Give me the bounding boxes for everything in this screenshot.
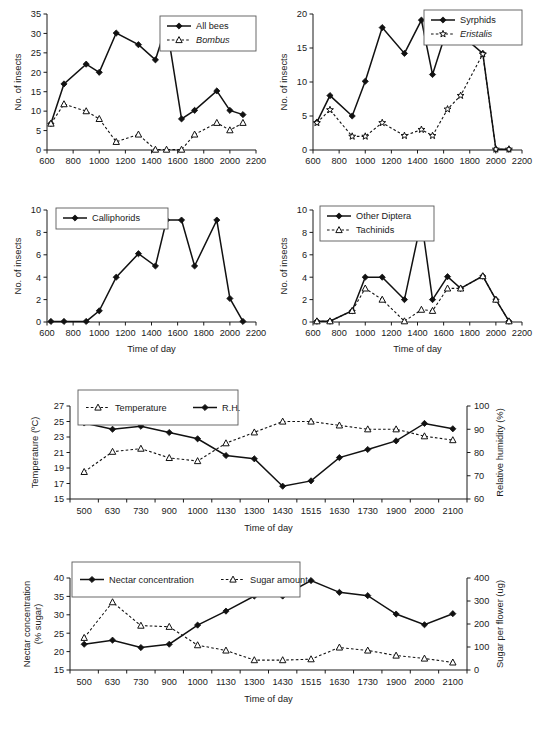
y-tick-label: 0 xyxy=(302,317,307,327)
data-point xyxy=(240,119,246,125)
y-tick-label-left: 21 xyxy=(54,448,64,458)
y-tick-label-left: 25 xyxy=(54,629,64,639)
y-axis-title: No. of insects xyxy=(278,53,289,110)
x-tick-label: 1000 xyxy=(187,506,207,516)
y-tick-label: 4 xyxy=(302,273,307,283)
y-tick-label: 0 xyxy=(36,317,41,327)
y-tick-label: 6 xyxy=(36,250,41,260)
data-point xyxy=(192,263,198,269)
x-tick-label: 1600 xyxy=(167,328,187,338)
data-point xyxy=(362,274,368,280)
y-tick-label: 8 xyxy=(36,228,41,238)
x-tick-label: 1200 xyxy=(381,156,401,166)
data-point xyxy=(81,641,87,647)
x-tick-label: 1730 xyxy=(358,677,378,687)
x-tick-label: 1300 xyxy=(244,506,264,516)
y-tick-label-right: 70 xyxy=(474,471,484,481)
y-tick-label-left: 17 xyxy=(54,479,64,489)
x-tick-label: 1400 xyxy=(141,328,161,338)
data-point xyxy=(362,133,369,140)
data-point xyxy=(421,622,427,628)
x-tick-label: 1800 xyxy=(194,328,214,338)
series-line-1 xyxy=(317,54,509,149)
x-tick-label: 1400 xyxy=(407,328,427,338)
data-point xyxy=(506,146,513,153)
x-tick-label: 2000 xyxy=(220,156,240,166)
data-point xyxy=(135,131,141,137)
x-tick-label: 1515 xyxy=(301,677,321,687)
y-tick-label: 35 xyxy=(31,9,41,19)
x-tick-label: 500 xyxy=(77,506,92,516)
x-tick-label: 1130 xyxy=(216,677,236,687)
x-tick-label: 600 xyxy=(39,156,54,166)
y-tick-label-left: 40 xyxy=(54,573,64,583)
data-point xyxy=(492,146,499,153)
x-tick-label: 1000 xyxy=(89,156,109,166)
y-tick-label-left: 19 xyxy=(54,463,64,473)
chart-temp-rh: 5006307309001000113013001430151516301730… xyxy=(0,382,535,547)
data-point xyxy=(61,318,67,324)
y-tick-label: 6 xyxy=(302,250,307,260)
x-tick-label: 1430 xyxy=(272,506,292,516)
y-tick-label: 2 xyxy=(302,295,307,305)
x-tick-label: 1515 xyxy=(301,506,321,516)
data-point xyxy=(450,426,456,432)
x-tick-label: 1800 xyxy=(460,156,480,166)
x-tick-label: 1800 xyxy=(460,328,480,338)
x-tick-label: 1600 xyxy=(433,328,453,338)
y-tick-label-left: 15 xyxy=(54,665,64,675)
y-tick-label-right: 0 xyxy=(474,665,479,675)
y-tick-label: 20 xyxy=(31,68,41,78)
chart-calliphorids: 6008001000120014001600180020002200024681… xyxy=(0,182,268,368)
x-tick-label: 1130 xyxy=(216,506,236,516)
data-point xyxy=(191,131,197,137)
x-tick-label: 1000 xyxy=(89,328,109,338)
legend: Nectar concentrationSugar amount xyxy=(72,562,308,597)
x-axis-title: Time of day xyxy=(244,522,293,533)
x-tick-label: 1800 xyxy=(194,156,214,166)
y-tick-label-left: 25 xyxy=(54,417,64,427)
legend: All beesBombus xyxy=(160,16,256,51)
x-tick-label: 2000 xyxy=(486,156,506,166)
x-tick-label: 2000 xyxy=(220,328,240,338)
data-point xyxy=(138,644,144,650)
data-point xyxy=(336,644,342,650)
x-tick-label: 600 xyxy=(305,156,320,166)
series-line-0 xyxy=(51,220,243,321)
legend-label-1: Eristalis xyxy=(460,29,493,39)
x-tick-label: 1900 xyxy=(386,677,406,687)
legend: TemperatureR.H. xyxy=(78,390,240,425)
y-axis-title: No. of insects xyxy=(278,237,289,294)
x-tick-label: 730 xyxy=(133,677,148,687)
y-tick-label: 0 xyxy=(36,145,41,155)
x-tick-label: 730 xyxy=(133,506,148,516)
x-tick-label: 800 xyxy=(65,328,80,338)
y-tick-label-left: 20 xyxy=(54,647,64,657)
series-line-1 xyxy=(84,423,453,486)
data-point xyxy=(109,448,115,454)
x-tick-label: 600 xyxy=(39,328,54,338)
data-point xyxy=(429,132,436,139)
y-tick-label-right: 90 xyxy=(474,425,484,435)
y-tick-label: 4 xyxy=(36,273,41,283)
x-tick-label: 500 xyxy=(77,677,92,687)
x-tick-label: 630 xyxy=(105,677,120,687)
legend-label-1: R.H. xyxy=(222,403,240,413)
y-tick-label-left: 30 xyxy=(54,610,64,620)
data-point xyxy=(240,112,246,118)
y-tick-label: 2 xyxy=(36,295,41,305)
data-point xyxy=(418,306,424,312)
y-tick-label: 30 xyxy=(31,29,41,39)
data-point xyxy=(308,577,314,583)
y-tick-label: 10 xyxy=(297,77,307,87)
y-axis-title-left: Temperature (ºC) xyxy=(29,417,40,489)
x-tick-label: 2100 xyxy=(443,506,463,516)
data-point xyxy=(401,132,408,139)
x-tick-label: 630 xyxy=(105,506,120,516)
series-line-1 xyxy=(51,104,243,149)
y-tick-label-right: 100 xyxy=(474,401,489,411)
x-tick-label: 1000 xyxy=(355,156,375,166)
data-point xyxy=(450,611,456,617)
series-line-1 xyxy=(84,602,453,662)
x-tick-label: 1430 xyxy=(272,677,292,687)
